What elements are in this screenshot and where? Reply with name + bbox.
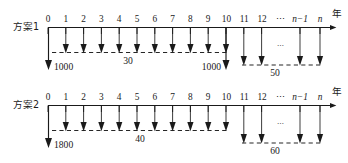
tick-label-11: 11 <box>240 14 249 24</box>
diagram-canvas: 方案1 年 0 1 <box>0 0 348 163</box>
tick-label-2: 2 <box>81 14 86 24</box>
annuity-amount-plan1-second: 50 <box>270 67 280 78</box>
tick2-label-8: 8 <box>188 92 193 102</box>
mid-outflow-amount-plan1: 1000 <box>202 61 221 72</box>
tick2-label-9: 9 <box>206 92 211 102</box>
tick2-label-0: 0 <box>46 92 51 102</box>
tick-label-9: 9 <box>206 14 211 24</box>
tick-label-n: n <box>318 14 323 24</box>
annuity-arrows-plan1-first <box>63 28 229 53</box>
cash-flow-diagram: 方案1 年 0 1 <box>0 0 348 163</box>
tick2-label-10: 10 <box>222 92 232 102</box>
row-label-plan2: 方案2 <box>13 99 39 110</box>
tick2-label-3: 3 <box>99 92 104 102</box>
tick2-label-1: 1 <box>63 92 68 102</box>
tick-label-3: 3 <box>99 14 104 24</box>
tick-label-ellipsis: ⋯ <box>276 14 285 24</box>
initial-outflow-amount-plan1: 1000 <box>54 61 73 72</box>
annuity-gap-ellipsis-plan2: ⋯ <box>277 120 285 128</box>
tick2-label-2: 2 <box>81 92 86 102</box>
tick-label-0: 0 <box>46 14 51 24</box>
tick-label-n-minus-1: n−1 <box>292 14 308 24</box>
tick-group-plan2: 0 1 2 3 4 5 6 7 8 9 10 11 12 ⋯ n−1 n <box>46 92 323 112</box>
row-label-plan1: 方案1 <box>13 21 39 32</box>
tick2-label-5: 5 <box>135 92 140 102</box>
tick-label-10: 10 <box>222 14 232 24</box>
tick2-label-n-minus-1: n−1 <box>292 92 308 102</box>
annuity-amount-plan2-first: 40 <box>135 133 145 144</box>
annuity-gap-ellipsis-plan1: ⋯ <box>277 42 285 50</box>
tick2-label-4: 4 <box>117 92 122 102</box>
tick2-label-6: 6 <box>152 92 157 102</box>
initial-outflow-amount-plan2: 1800 <box>54 139 73 150</box>
tick-label-4: 4 <box>117 14 122 24</box>
tick-label-7: 7 <box>170 14 175 24</box>
tick-label-12: 12 <box>257 14 267 24</box>
tick2-label-n: n <box>318 92 323 102</box>
tick2-label-7: 7 <box>170 92 175 102</box>
row-plan2: 方案2 年 0 1 2 <box>13 86 342 156</box>
initial-outflow-arrowhead-plan1 <box>45 60 52 70</box>
tick-label-1: 1 <box>63 14 68 24</box>
tick-label-5: 5 <box>135 14 140 24</box>
tick2-label-12: 12 <box>257 92 267 102</box>
annuity-arrows-plan2-first <box>63 106 229 131</box>
row-plan1: 方案1 年 0 1 <box>13 8 342 78</box>
tick2-label-11: 11 <box>240 92 249 102</box>
tick-label-6: 6 <box>152 14 157 24</box>
initial-outflow-arrowhead-plan2 <box>45 138 52 148</box>
axis-unit-label-plan1: 年 <box>332 8 342 19</box>
mid-outflow-arrowhead-plan1 <box>223 60 230 70</box>
tick-group-plan1: 0 1 2 3 4 5 6 7 8 9 10 11 12 ⋯ n−1 n <box>46 14 323 34</box>
annuity-amount-plan2-second: 60 <box>270 145 280 156</box>
tick2-label-ellipsis: ⋯ <box>276 92 285 102</box>
tick-label-8: 8 <box>188 14 193 24</box>
annuity-amount-plan1-first: 30 <box>123 55 133 66</box>
axis-unit-label-plan2: 年 <box>332 86 342 97</box>
